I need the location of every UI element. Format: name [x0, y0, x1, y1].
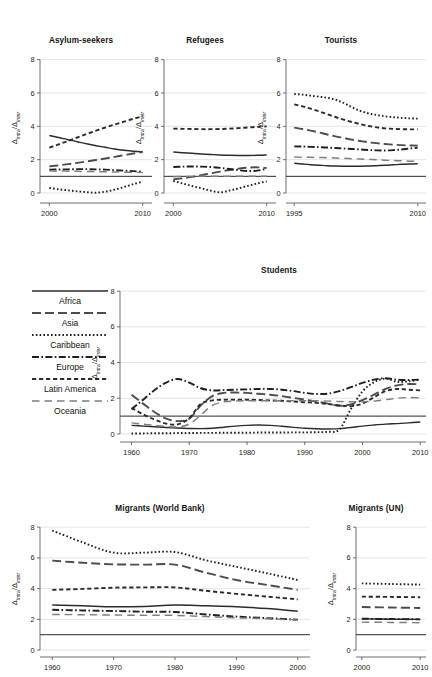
panel-migrants-un: Migrants (UN) 0246820002010Δintra/Δinter [322, 504, 430, 677]
series-line-asia [132, 384, 421, 421]
series-line-asia [362, 607, 420, 608]
y-tick-label: 4 [154, 122, 158, 131]
x-tick-label: 1990 [228, 663, 244, 672]
series-line-europe [52, 610, 297, 620]
panel-students: Students 02468196019701980199020002010Δi… [86, 266, 430, 466]
y-axis-title: Δintra/Δinter [326, 573, 337, 606]
panel-migrants-world-bank: Migrants (World Bank) 024681960197019801… [6, 504, 314, 677]
y-tick-label: 2 [30, 155, 34, 164]
series-line-oceania [132, 398, 421, 427]
y-tick-label: 2 [276, 155, 280, 164]
series-line-asia [52, 561, 297, 590]
series-line-oceania [294, 157, 418, 161]
series-line-latin-america [362, 597, 420, 598]
panel-title: Tourists [252, 36, 430, 45]
series-line-europe [294, 146, 418, 150]
y-tick-label: 6 [110, 322, 114, 331]
x-tick-label: 2000 [41, 209, 57, 218]
plot-area: 0246820002010Δintra/Δinter [322, 517, 430, 677]
series-line-caribbean [294, 94, 418, 119]
x-tick-label: 1980 [239, 448, 255, 457]
chart-svg: 0246820002010Δintra/Δinter [322, 517, 430, 677]
x-tick-label: 1960 [44, 663, 60, 672]
y-axis-title: Δintra/Δinter [10, 112, 21, 145]
y-tick-label: 8 [30, 55, 34, 64]
y-tick-label: 0 [276, 189, 280, 198]
series-line-oceania [362, 622, 420, 623]
y-tick-label: 6 [30, 89, 34, 98]
series-line-caribbean [362, 583, 420, 584]
series-line-africa [294, 163, 418, 166]
y-tick-label: 4 [30, 122, 34, 131]
y-tick-label: 8 [346, 523, 350, 532]
y-tick-label: 4 [346, 584, 350, 593]
panel-tourists: Tourists 0246819952010Δintra/Δinter [252, 36, 430, 226]
series-line-asia [294, 128, 418, 146]
y-tick-label: 8 [30, 523, 34, 532]
x-tick-label: 1980 [167, 663, 183, 672]
series-line-latin-america [294, 104, 418, 129]
y-tick-label: 6 [30, 553, 34, 562]
y-tick-label: 8 [154, 55, 158, 64]
y-tick-label: 8 [110, 287, 114, 296]
y-axis-title: Δintra/Δinter [90, 347, 101, 380]
plot-area: 02468196019701980199020002010Δintra/Δint… [86, 280, 430, 464]
y-axis-title: Δintra/Δinter [10, 573, 21, 606]
panel-title: Migrants (World Bank) [6, 504, 314, 513]
x-tick-label: 2000 [354, 448, 370, 457]
y-tick-label: 4 [276, 122, 280, 131]
y-tick-label: 6 [276, 89, 280, 98]
y-axis-title: Δintra/Δinter [134, 112, 145, 145]
chart-svg: 02468196019701980199020002010Δintra/Δint… [86, 280, 430, 464]
chart-svg: 0246819601970198019902000Δintra/Δinter [6, 517, 314, 677]
y-tick-label: 6 [154, 89, 158, 98]
series-line-latin-america [49, 116, 142, 147]
panel-title: Migrants (UN) [322, 504, 430, 513]
y-tick-label: 2 [110, 394, 114, 403]
y-tick-label: 2 [30, 615, 34, 624]
y-tick-label: 2 [154, 155, 158, 164]
x-tick-label: 2000 [354, 663, 370, 672]
y-tick-label: 0 [154, 189, 158, 198]
y-tick-label: 0 [346, 646, 350, 655]
y-tick-label: 4 [30, 584, 34, 593]
series-line-caribbean [52, 531, 297, 580]
panel-title: Students [128, 266, 430, 275]
plot-area: 0246819601970198019902000Δintra/Δinter [6, 517, 314, 677]
y-tick-label: 8 [276, 55, 280, 64]
y-axis-title: Δintra/Δinter [256, 112, 267, 145]
series-line-oceania [49, 171, 142, 173]
chart-svg: 0246819952010Δintra/Δinter [252, 49, 430, 225]
y-tick-label: 6 [346, 553, 350, 562]
y-tick-label: 0 [30, 646, 34, 655]
plot-area: 0246819952010Δintra/Δinter [252, 49, 430, 225]
x-tick-label: 2010 [412, 448, 428, 457]
y-tick-label: 0 [110, 430, 114, 439]
y-tick-label: 0 [30, 189, 34, 198]
x-tick-label: 1990 [297, 448, 313, 457]
y-tick-label: 2 [346, 615, 350, 624]
x-tick-label: 2000 [165, 209, 181, 218]
x-tick-label: 2010 [412, 663, 428, 672]
series-line-caribbean [49, 182, 142, 193]
x-tick-label: 1995 [286, 209, 302, 218]
x-tick-label: 2010 [410, 209, 426, 218]
x-tick-label: 1970 [181, 448, 197, 457]
x-tick-label: 1960 [123, 448, 139, 457]
y-tick-label: 4 [110, 358, 114, 367]
x-tick-label: 1970 [105, 663, 121, 672]
series-line-africa [132, 422, 421, 429]
series-line-asia [49, 152, 142, 166]
x-tick-label: 2000 [290, 663, 306, 672]
